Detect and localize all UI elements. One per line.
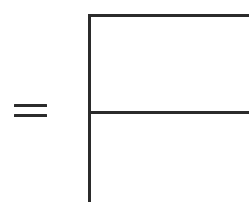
equals-lower-bar — [14, 114, 47, 117]
equals-sign — [14, 104, 47, 120]
equals-upper-bar — [14, 104, 47, 107]
vertical-rule — [88, 14, 91, 202]
top-horizontal-rule — [88, 14, 249, 17]
figure-canvas — [0, 0, 249, 202]
middle-horizontal-rule — [88, 111, 249, 114]
